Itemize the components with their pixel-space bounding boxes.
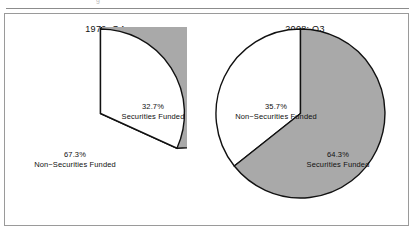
- clipped-text-above: g: [96, 0, 136, 4]
- slice-name-right-gray: Securities Funded: [277, 160, 399, 170]
- slice-pct-right-white: 35.7%: [211, 102, 341, 112]
- pie-panel-1979-q4: 1979: Q4 32.7% Securities Funded 67.3% N…: [5, 14, 205, 227]
- slice-pct-left-gray: 67.3%: [11, 150, 139, 160]
- slice-label-right-non-securities-funded: 35.7% Non−Securities Funded: [211, 102, 341, 121]
- figure-frame: 1979: Q4 32.7% Securities Funded 67.3% N…: [4, 13, 409, 226]
- slice-name-right-white: Non−Securities Funded: [211, 112, 341, 122]
- slice-label-right-securities-funded: 64.3% Securities Funded: [277, 150, 399, 169]
- top-horizontal-rule: [6, 8, 409, 9]
- slice-pct-left-white: 32.7%: [101, 102, 205, 112]
- slice-label-left-non-securities-funded: 67.3% Non−Securities Funded: [11, 150, 139, 169]
- slice-name-left-gray: Non−Securities Funded: [11, 160, 139, 170]
- slice-label-left-securities-funded: 32.7% Securities Funded: [101, 102, 205, 121]
- figure-root: g 1979: Q4 32.7% Securities Funded 67.3%…: [0, 0, 415, 232]
- slice-pct-right-gray: 64.3%: [277, 150, 399, 160]
- pie-panel-2008-q3: 2008: Q3 35.7% Non−Securities Funded 64.…: [205, 14, 405, 227]
- slice-name-left-white: Securities Funded: [101, 112, 205, 122]
